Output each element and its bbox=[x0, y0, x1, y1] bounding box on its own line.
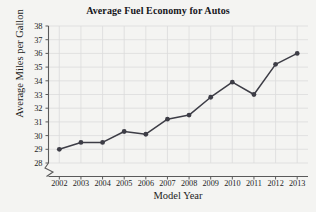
svg-text:2002: 2002 bbox=[51, 179, 67, 188]
x-axis-tick-labels: 2002200320042005200620072008200920102011… bbox=[51, 179, 305, 188]
svg-text:2007: 2007 bbox=[159, 179, 175, 188]
svg-text:37: 37 bbox=[34, 36, 42, 45]
data-point-markers bbox=[57, 51, 300, 152]
svg-text:2012: 2012 bbox=[267, 179, 283, 188]
line-chart-plot: 3837363534333231302928 20022003200420052… bbox=[0, 0, 316, 212]
svg-text:2006: 2006 bbox=[138, 179, 154, 188]
svg-text:2013: 2013 bbox=[289, 179, 305, 188]
chart-screenshot: Average Fuel Economy for Autos Average M… bbox=[0, 0, 316, 212]
svg-text:38: 38 bbox=[34, 22, 42, 31]
svg-text:2010: 2010 bbox=[224, 179, 240, 188]
svg-text:2008: 2008 bbox=[181, 179, 197, 188]
svg-text:2005: 2005 bbox=[116, 179, 132, 188]
data-series-line bbox=[59, 53, 297, 149]
svg-text:30: 30 bbox=[34, 132, 42, 141]
svg-text:2004: 2004 bbox=[94, 179, 110, 188]
svg-text:36: 36 bbox=[34, 49, 42, 58]
y-axis-break-icon bbox=[45, 163, 53, 177]
svg-text:35: 35 bbox=[34, 63, 42, 72]
y-axis-tick-labels: 3837363534333231302928 bbox=[34, 22, 43, 168]
svg-text:33: 33 bbox=[34, 91, 42, 100]
svg-text:32: 32 bbox=[34, 104, 42, 113]
svg-text:2009: 2009 bbox=[203, 179, 219, 188]
svg-text:29: 29 bbox=[34, 145, 42, 154]
svg-text:31: 31 bbox=[34, 118, 42, 127]
svg-text:28: 28 bbox=[34, 159, 42, 168]
svg-text:34: 34 bbox=[34, 77, 43, 86]
svg-text:2003: 2003 bbox=[73, 179, 89, 188]
svg-text:2011: 2011 bbox=[246, 179, 262, 188]
